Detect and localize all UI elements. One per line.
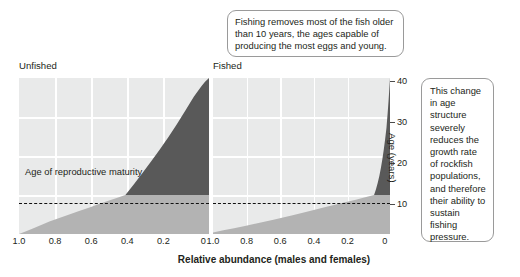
panel-fished: Fished 1.0 0.8 0.6 0.4 0.2 0 — [213, 78, 390, 234]
ytick-40: 40 — [397, 76, 407, 86]
ytick-10: 10 — [397, 199, 407, 209]
yaxis-label: Age (years) — [387, 133, 398, 183]
ytick-30: 30 — [397, 117, 407, 127]
xtick-fished-4: 0.2 — [341, 236, 354, 246]
xtick-unfished-3: 0.4 — [121, 236, 134, 246]
xtick-fished-1: 0.8 — [240, 236, 253, 246]
callout-age-structure: This change in age structure severely re… — [421, 78, 494, 242]
plot-area-fished — [213, 78, 390, 234]
callout-fishing-removes: Fishing removes most of the fish older t… — [227, 10, 404, 57]
xtick-unfished-4: 0.2 — [157, 236, 170, 246]
xaxis-label-text: Relative abundance (males and females) — [178, 254, 370, 265]
panel-fished-title: Fished — [213, 60, 242, 71]
age-distribution-fished — [213, 78, 390, 234]
callout-right-text: This change in age structure severely re… — [430, 85, 486, 242]
xaxis-label: Relative abundance (males and females) — [0, 254, 520, 265]
xtick-unfished-5: 0 — [201, 236, 206, 246]
callout-top-text: Fishing removes most of the fish older t… — [235, 16, 393, 51]
xtick-unfished-2: 0.6 — [85, 236, 98, 246]
xaxis-unfished: 1.0 0.8 0.6 0.4 0.2 0 — [19, 236, 209, 250]
xtick-unfished-1: 0.8 — [49, 236, 62, 246]
ytick-20: 20 — [397, 158, 407, 168]
xtick-fished-2: 0.6 — [274, 236, 287, 246]
maturity-line-fished — [213, 203, 390, 204]
panel-unfished-title: Unfished — [19, 60, 57, 71]
xtick-fished-0: 1.0 — [207, 236, 220, 246]
plot-area-unfished: Age of reproductive maturity — [19, 78, 209, 234]
xtick-fished-3: 0.4 — [307, 236, 320, 246]
maturity-label: Age of reproductive maturity — [25, 166, 142, 178]
xtick-fished-5: 0 — [382, 236, 387, 246]
maturity-line-unfished — [19, 203, 209, 204]
panel-unfished: Unfished Age of reproductive maturity 1.… — [19, 78, 209, 234]
age-distribution-unfished — [19, 78, 209, 234]
area-immature-fished — [213, 195, 390, 234]
xtick-unfished-0: 1.0 — [13, 236, 26, 246]
area-immature-unfished — [19, 195, 209, 234]
xaxis-fished: 1.0 0.8 0.6 0.4 0.2 0 — [213, 236, 390, 250]
